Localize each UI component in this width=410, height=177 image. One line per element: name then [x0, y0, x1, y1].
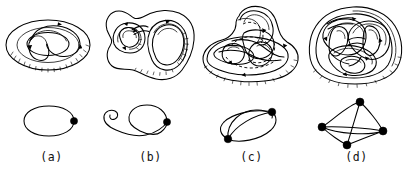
graph-edge-middle-arc — [228, 112, 272, 139]
graph-illustration-wedge-2-circles — [98, 90, 203, 150]
graph-vertex — [70, 117, 77, 124]
graph-illustration-wedge-1-circle — [0, 90, 103, 150]
genus2-orientation-arrows — [122, 20, 170, 51]
figure-canvas: (a) — [0, 0, 410, 177]
genus2-right-hole — [152, 25, 183, 65]
panel-caption-b: (b) — [98, 150, 203, 164]
panel-caption-a: (a) — [0, 150, 103, 164]
graph-edges-k4 — [322, 102, 383, 145]
graph-vertex-bottom-left — [224, 135, 232, 143]
figure-panel-a: (a) — [0, 0, 103, 177]
graph-edge-thin-loop — [104, 110, 167, 135]
graph-edge-upper-arc — [228, 110, 273, 139]
graph-vertex — [163, 118, 170, 125]
genus2-outer-outline — [106, 10, 194, 79]
genus3-connecting-bands — [327, 18, 365, 66]
surface-illustration-torus — [0, 0, 103, 92]
torus-longitude-loop — [31, 26, 80, 57]
graph-edge-big-loop — [129, 105, 167, 134]
genus3-hatching — [314, 57, 401, 87]
surface-illustration-genus-2-flat — [98, 0, 203, 92]
graph-vertex-right — [379, 127, 387, 135]
genus2p-loops — [207, 18, 288, 75]
genus3-loops — [323, 19, 390, 76]
genus2-loop-left — [113, 23, 145, 53]
graph-vertex-bottom — [343, 141, 351, 149]
graph-edge-loop — [24, 106, 74, 136]
genus2-loop-right — [148, 20, 188, 70]
figure-panel-d: (d) — [303, 0, 410, 177]
graph-vertex-left — [318, 123, 326, 131]
genus3-orientation-arrows — [323, 17, 382, 76]
figure-panel-c: (c) — [198, 0, 305, 177]
torus-shading-hatching — [11, 45, 89, 72]
panel-caption-c: (c) — [198, 150, 305, 164]
panel-caption-d: (d) — [303, 150, 410, 164]
graph-vertex-top-right — [268, 108, 276, 116]
surface-illustration-genus-2-perspective — [198, 0, 305, 92]
figure-panel-b: (b) — [98, 0, 203, 177]
graph-illustration-theta — [198, 90, 305, 150]
graph-vertex-top — [356, 98, 364, 106]
torus-meridian-loop — [29, 36, 49, 61]
surface-illustration-genus-3 — [303, 0, 410, 92]
genus3-left-hole — [329, 26, 348, 56]
graph-illustration-k4 — [303, 90, 410, 150]
